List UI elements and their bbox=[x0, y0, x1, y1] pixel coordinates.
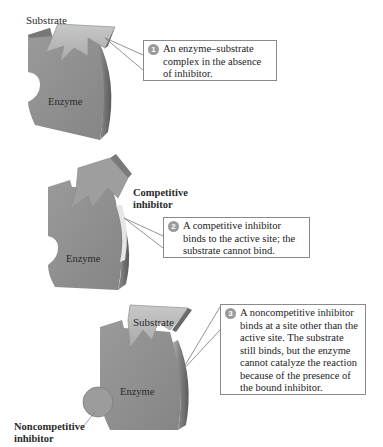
pointer-line-1 bbox=[105, 38, 143, 70]
enzyme-3 bbox=[100, 320, 189, 430]
step-badge-2: 2 bbox=[168, 221, 179, 232]
competitive-inhibitor-label-line2: inhibitor bbox=[133, 199, 188, 211]
substrate-label-3: Substrate bbox=[133, 316, 174, 328]
competitive-inhibitor-label: Competitive inhibitor bbox=[133, 187, 188, 211]
callout-2: 2 A competitive inhibitor binds to the a… bbox=[163, 217, 310, 258]
competitive-inhibitor-label-line1: Competitive bbox=[133, 187, 188, 199]
callout-1-text: An enzyme–substrate complex in the absen… bbox=[163, 43, 261, 79]
noncompetitive-inhibitor-label-line2: inhibitor bbox=[14, 433, 85, 445]
callout-1: 1 An enzyme–substrate complex in the abs… bbox=[143, 40, 277, 81]
step-badge-1: 1 bbox=[148, 44, 159, 55]
enzyme-label-2: Enzyme bbox=[66, 253, 100, 264]
pointer-line-2 bbox=[124, 218, 163, 248]
noncompetitive-inhibitor-label: Noncompetitive inhibitor bbox=[14, 421, 85, 445]
noncompetitive-inhibitor-label-line1: Noncompetitive bbox=[14, 421, 85, 433]
noncompetitive-inhibitor-shape bbox=[83, 387, 113, 417]
callout-3-text: A noncompetitive inhibitor binds at a si… bbox=[240, 307, 358, 393]
substrate-label-1: Substrate bbox=[26, 14, 67, 26]
step-badge-3: 3 bbox=[225, 308, 236, 319]
callout-2-text: A competitive inhibitor binds to the act… bbox=[183, 220, 295, 256]
enzyme-label-1: Enzyme bbox=[48, 96, 82, 107]
enzyme-label-3: Enzyme bbox=[120, 386, 154, 397]
callout-3: 3 A noncompetitive inhibitor binds at a … bbox=[220, 304, 366, 395]
